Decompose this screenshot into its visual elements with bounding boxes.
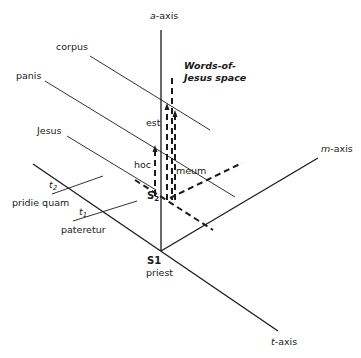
meum-arrowhead [173,110,178,117]
m-axis-suffix: -axis [330,143,352,154]
corpus-label: corpus [56,42,88,52]
t-axis-suffix: -axis [275,336,297,347]
s1-label: S1 [147,256,161,266]
jesus-label: Jesus [37,126,62,136]
hoc-arrowhead [153,145,158,152]
t2-caption: pridie quam [12,198,69,208]
s1-caption: priest [146,268,173,278]
t-axis-line [33,164,278,331]
a-axis-suffix: -axis [156,10,178,21]
t2-sub: 2 [53,184,57,192]
t2-line [52,176,103,194]
space-title: Words-of- Jesus space [184,60,246,84]
space-title-line2: Jesus space [184,72,246,84]
diagram-canvas [0,0,361,358]
s2-sub: 2 [154,195,159,203]
hoc-label: hoc [134,160,151,170]
t2-label: t2 [49,180,57,192]
a-axis-label: a-axis [150,11,178,21]
meum-label: meum [176,166,206,176]
t1-caption: pateretur [61,225,106,235]
panis-label: panis [16,71,41,81]
est-label: est [146,118,161,128]
t1-sub: 1 [83,211,87,219]
t1-label: t1 [79,207,87,219]
t-axis-label: t-axis [271,337,297,347]
m-axis-var: m [321,143,330,154]
s2-label: S2 [147,191,159,203]
space-title-line1: Words-of- [184,60,246,72]
m-axis-label: m-axis [321,144,353,154]
